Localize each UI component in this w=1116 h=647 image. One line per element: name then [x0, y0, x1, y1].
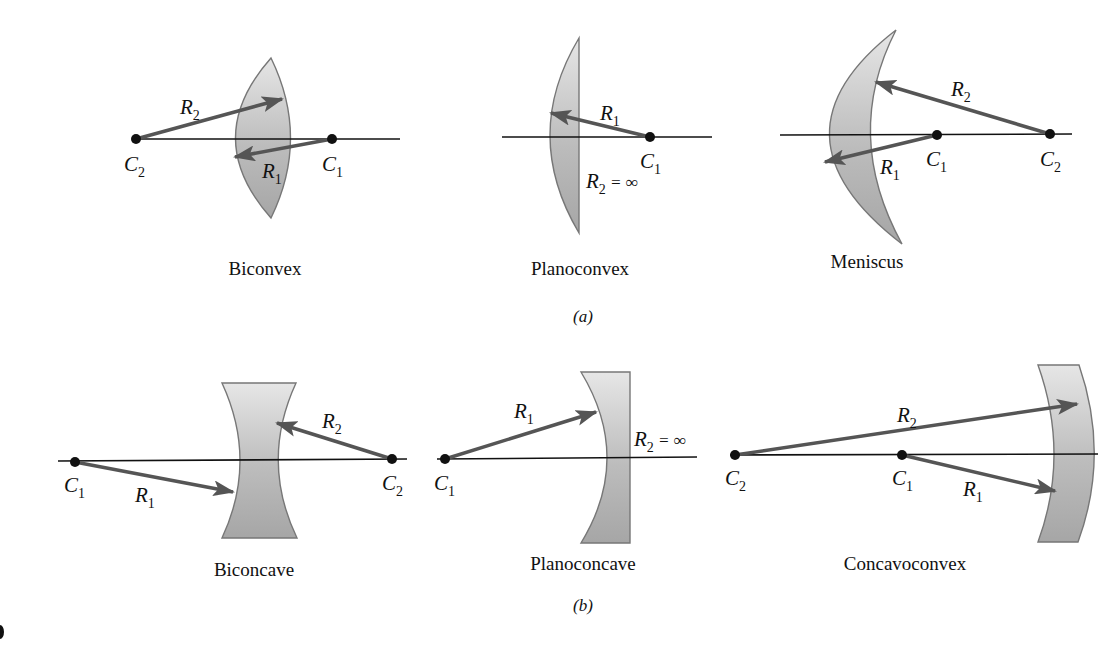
r1-label: R1 [134, 483, 155, 511]
c1-label: C1 [640, 149, 661, 177]
optical-axis [730, 454, 1098, 455]
c1-point [440, 454, 450, 464]
optical-axis [58, 459, 407, 461]
c1-point [897, 450, 907, 460]
c2-label: C2 [1040, 147, 1061, 175]
planoconcave-diagram: R1 R2 = ∞ C1 Planoconcave [434, 372, 697, 574]
biconcave-diagram: R2 R1 C1 C2 Biconcave [58, 383, 407, 580]
r1-label: R1 [599, 101, 620, 129]
r1-label: R1 [513, 399, 534, 427]
c1-label: C1 [892, 466, 913, 494]
part-a-label: (a) [573, 307, 593, 326]
lens-types-figure: R2 R1 C2 C1 Biconvex R1 C1 R2 = ∞ Planoc… [0, 0, 1116, 647]
r2-label: R2 [321, 409, 342, 437]
optical-axis [437, 457, 697, 459]
r1-arrow [75, 462, 233, 492]
meniscus-caption: Meniscus [831, 251, 904, 272]
c1-point [932, 130, 942, 140]
r2-label: R2 [896, 403, 917, 431]
planoconcave-caption: Planoconcave [530, 553, 636, 574]
biconvex-lens-shape [236, 58, 291, 218]
biconcave-caption: Biconcave [214, 559, 294, 580]
part-b-label: (b) [573, 596, 593, 615]
c2-point [1045, 129, 1055, 139]
cropped-edge-glyph [0, 625, 4, 639]
planoconvex-diagram: R1 C1 R2 = ∞ Planoconvex [502, 38, 712, 279]
r1-label: R1 [879, 155, 900, 183]
planoconvex-lens-shape [550, 38, 579, 233]
concavoconvex-caption: Concavoconvex [844, 553, 967, 574]
c2-label: C2 [725, 466, 746, 494]
r2-label: R2 [950, 77, 971, 105]
planoconvex-caption: Planoconvex [531, 258, 630, 279]
biconvex-caption: Biconvex [229, 258, 302, 279]
c1-point [70, 457, 80, 467]
c1-point [645, 132, 655, 142]
r1-arrow [902, 455, 1055, 491]
c1-label: C1 [322, 152, 343, 180]
c2-label: C2 [124, 152, 145, 180]
r2-infinity-label: R2 = ∞ [585, 169, 638, 197]
concavoconvex-diagram: R2 R1 C2 C1 Concavoconvex [725, 365, 1098, 574]
r2-infinity-label: R2 = ∞ [633, 427, 686, 455]
c1-label: C1 [926, 147, 947, 175]
c2-label: C2 [382, 471, 403, 499]
c1-label: C1 [434, 471, 455, 499]
c2-point [131, 134, 141, 144]
meniscus-lens-shape [829, 30, 902, 244]
r1-label: R1 [962, 477, 983, 505]
c2-point [387, 454, 397, 464]
meniscus-diagram: R2 R1 C1 C2 Meniscus [780, 30, 1072, 272]
r2-label: R2 [179, 95, 200, 123]
c2-point [730, 450, 740, 460]
optical-axis [780, 134, 1072, 135]
c1-point [327, 134, 337, 144]
biconvex-diagram: R2 R1 C2 C1 Biconvex [124, 58, 400, 279]
c1-label: C1 [64, 473, 85, 501]
